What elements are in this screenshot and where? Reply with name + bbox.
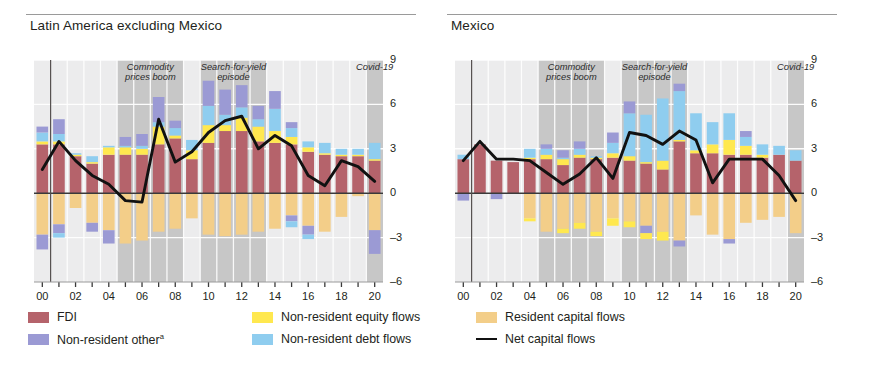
bar-segment	[302, 235, 314, 239]
bar-segment	[757, 155, 769, 158]
x-axis-tick-label: 20	[782, 290, 810, 302]
figure-root: Latin America excluding Mexico Commodity…	[0, 0, 874, 365]
legend-item-fdi[interactable]: FDI	[28, 310, 77, 324]
bar-segment	[269, 109, 281, 131]
x-axis-tick-label: 18	[327, 290, 355, 302]
x-axis-tick-label: 16	[294, 290, 322, 302]
bar-segment	[740, 146, 752, 155]
bar-segment	[319, 143, 331, 153]
bar-segment	[203, 106, 215, 125]
bar-segment	[103, 147, 115, 154]
bar-segment	[773, 146, 785, 155]
bar-segment	[690, 113, 702, 150]
bar-segment	[319, 153, 331, 154]
bar-segment	[574, 223, 586, 229]
bar-segment	[36, 133, 48, 142]
bar-segment	[236, 131, 248, 193]
bar-segment	[640, 162, 652, 163]
bar-segment	[574, 193, 586, 223]
bar-segment	[541, 149, 553, 155]
bar-segment	[723, 140, 735, 155]
bar-segment	[674, 141, 686, 193]
band-label-commodity-prices-boom: Commodity prices boom	[104, 62, 196, 83]
plot-area-latam: Commodity prices boomSearch-for-yield ep…	[26, 14, 416, 304]
x-axis-tick-label: 10	[616, 290, 644, 302]
bar-segment	[236, 85, 248, 107]
legend-line-swatch-net-capital-flows	[476, 338, 497, 340]
legend-color-swatch-fdi	[28, 312, 49, 323]
bar-segment	[186, 193, 198, 218]
legend-item-resident-capital-flows[interactable]: Resident capital flows	[476, 310, 625, 324]
bar-segment	[286, 193, 298, 215]
bar-segment	[674, 193, 686, 240]
bar-segment	[203, 81, 215, 106]
bar-segment	[624, 193, 636, 221]
bar-segment	[120, 137, 132, 146]
bar-segment	[723, 113, 735, 140]
bar-segment	[120, 147, 132, 154]
bar-segment	[574, 149, 586, 155]
bar-segment	[707, 193, 719, 234]
bar-segment	[352, 155, 364, 156]
bar-segment	[169, 121, 181, 128]
legend-item-non-resident-debt-flows[interactable]: Non-resident debt flows	[252, 332, 411, 346]
bar-segment	[219, 125, 231, 131]
y-axis-tick-label: 0	[390, 186, 396, 198]
bar-segment	[219, 131, 231, 193]
bar-segment	[286, 128, 298, 137]
bar-segment	[657, 170, 669, 194]
bar-segment	[773, 193, 785, 217]
bar-segment	[269, 193, 281, 229]
plot-area-mexico: Commodity prices boomSearch-for-yield ep…	[447, 14, 837, 304]
bar-segment	[253, 106, 265, 119]
legend-label: FDI	[57, 310, 77, 324]
x-axis-tick-label: 00	[449, 290, 477, 302]
bar-segment	[219, 193, 231, 236]
x-axis-tick-label: 14	[261, 290, 289, 302]
y-axis-tick-label: –3	[811, 231, 823, 243]
legend-color-swatch-non-resident-debt-flows	[252, 334, 273, 345]
bar-segment	[541, 155, 553, 159]
x-axis-tick-label: 14	[682, 290, 710, 302]
legend-item-non-resident-equity-flows[interactable]: Non-resident equity flows	[252, 310, 420, 324]
y-axis-tick-label: 0	[811, 186, 817, 198]
bar-segment	[319, 193, 331, 231]
bar-segment	[790, 150, 802, 160]
bar-segment	[624, 101, 636, 113]
bar-segment	[120, 155, 132, 193]
bar-segment	[302, 147, 314, 151]
band-label-covid-19: Covid-19	[329, 62, 421, 72]
bar-segment	[607, 133, 619, 143]
bar-segment	[657, 232, 669, 241]
bar-segment	[136, 149, 148, 155]
bar-segment	[253, 193, 265, 231]
legend-item-non-resident-other[interactable]: Non-resident othera	[28, 332, 164, 347]
y-axis-tick-label: –6	[390, 275, 402, 287]
bar-segment	[319, 155, 331, 193]
bar-segment	[169, 138, 181, 193]
bar-segment	[590, 193, 602, 231]
bar-segment	[36, 235, 48, 250]
bar-segment	[186, 159, 198, 193]
bar-segment	[674, 241, 686, 247]
bar-segment	[690, 193, 702, 215]
panel-mexico: Mexico Commodity prices boomSearch-for-y…	[447, 14, 837, 304]
bar-segment	[590, 232, 602, 236]
bar-segment	[557, 158, 569, 159]
x-axis-tick-label: 04	[516, 290, 544, 302]
legend-color-swatch-non-resident-other	[28, 334, 49, 345]
bar-segment	[286, 215, 298, 221]
legend-item-net-capital-flows[interactable]: Net capital flows	[476, 332, 595, 346]
bar-segment	[574, 141, 586, 148]
bar-segment	[86, 223, 98, 232]
x-axis-tick-label: 02	[62, 290, 90, 302]
bar-segment	[757, 193, 769, 220]
y-axis-tick-label: 9	[390, 53, 396, 65]
legend-label: Resident capital flows	[505, 310, 625, 324]
x-axis-tick-label: 00	[28, 290, 56, 302]
band-label-search-for-yield-episode: Search-for-yield episode	[187, 62, 279, 83]
bar-segment	[657, 161, 669, 170]
chart-svg	[26, 14, 416, 304]
bar-segment	[607, 153, 619, 157]
bar-segment	[640, 226, 652, 233]
